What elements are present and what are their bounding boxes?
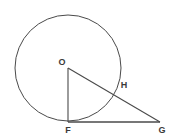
point-label-h: H — [121, 80, 128, 90]
point-label-f: F — [65, 125, 71, 135]
geometry-canvas: O F G H — [0, 0, 172, 140]
segment-og — [68, 68, 160, 122]
geometry-figure: O F G H — [0, 0, 172, 140]
point-label-g: G — [158, 125, 165, 135]
point-label-o: O — [58, 57, 65, 67]
